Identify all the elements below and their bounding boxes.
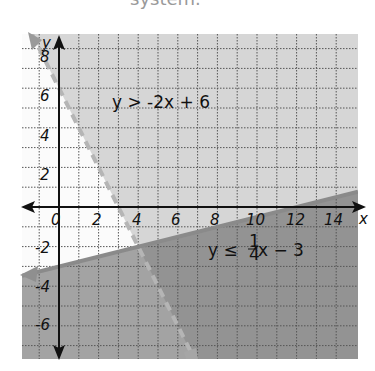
- x-axis-label: x: [358, 210, 368, 228]
- svg-text:4: 4: [132, 211, 142, 229]
- svg-text:14: 14: [324, 211, 343, 229]
- inequality-graph: y x 0 2 4 6 8 10 12 14 8 6 4 2 -2 -4 -6 …: [0, 0, 375, 371]
- svg-text:-6: -6: [35, 316, 50, 334]
- svg-text:x − 3: x − 3: [258, 240, 304, 260]
- svg-text:8: 8: [210, 211, 220, 229]
- svg-text:6: 6: [40, 87, 50, 105]
- svg-text:-2: -2: [35, 239, 50, 257]
- inequality-1-label: y > -2x + 6: [112, 92, 210, 112]
- svg-text:y ≤: y ≤: [208, 240, 238, 260]
- svg-text:0: 0: [51, 211, 61, 229]
- svg-text:8: 8: [40, 48, 50, 66]
- svg-text:12: 12: [286, 211, 305, 229]
- svg-text:10: 10: [246, 211, 265, 229]
- svg-text:-4: -4: [35, 278, 50, 296]
- svg-text:2: 2: [92, 211, 102, 229]
- svg-text:2: 2: [40, 166, 50, 184]
- svg-text:6: 6: [171, 211, 181, 229]
- svg-text:4: 4: [40, 127, 50, 145]
